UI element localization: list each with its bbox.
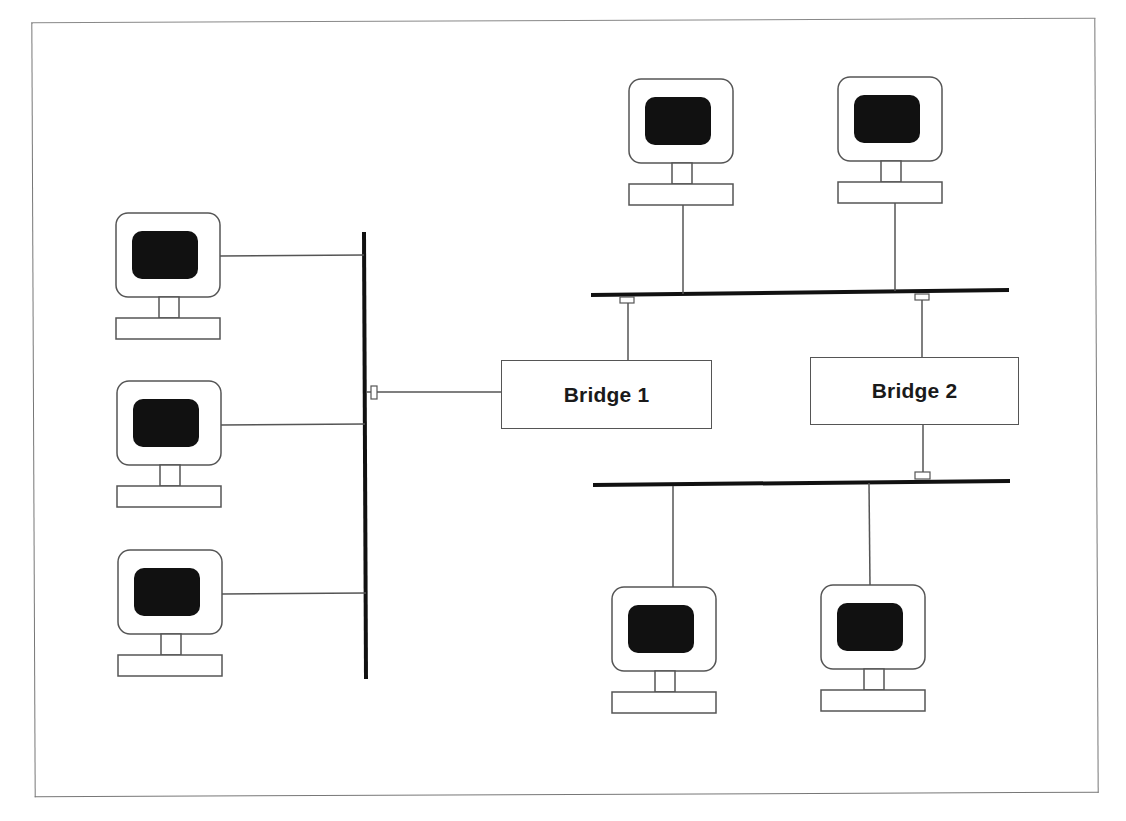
monitor-icon bbox=[117, 381, 221, 507]
bus-line-top bbox=[591, 290, 1009, 295]
bus-line-left bbox=[364, 232, 366, 679]
drop-cable bbox=[221, 424, 365, 425]
computer-left-1[interactable] bbox=[116, 213, 220, 339]
monitor-icon bbox=[629, 79, 733, 205]
port-connector-icon bbox=[915, 294, 929, 300]
segment-left bbox=[116, 213, 501, 679]
computer-bottom-2[interactable] bbox=[821, 585, 925, 711]
bridge-2-label: Bridge 2 bbox=[872, 379, 958, 403]
segment-bottom bbox=[593, 425, 1010, 713]
port-connector-icon bbox=[915, 472, 930, 479]
bridge-1-label: Bridge 1 bbox=[564, 383, 650, 407]
segment-top bbox=[591, 77, 1009, 361]
bus-line-bottom bbox=[593, 481, 1010, 485]
port-connector-icon bbox=[371, 386, 377, 399]
computer-top-1[interactable] bbox=[629, 79, 733, 205]
computer-bottom-1[interactable] bbox=[612, 587, 716, 713]
drop-cable bbox=[220, 255, 364, 256]
bridge-1-box[interactable]: Bridge 1 bbox=[501, 360, 712, 429]
monitor-icon bbox=[838, 77, 942, 203]
bridge-2-box[interactable]: Bridge 2 bbox=[810, 357, 1019, 425]
computer-top-2[interactable] bbox=[838, 77, 942, 203]
drop-cable bbox=[222, 593, 366, 594]
computer-left-3[interactable] bbox=[118, 550, 222, 676]
computer-left-2[interactable] bbox=[117, 381, 221, 507]
monitor-icon bbox=[612, 587, 716, 713]
monitor-icon bbox=[116, 213, 220, 339]
monitor-icon bbox=[821, 585, 925, 711]
monitor-icon bbox=[118, 550, 222, 676]
network-diagram: Bridge 1 Bridge 2 bbox=[0, 0, 1126, 821]
port-connector-icon bbox=[620, 297, 634, 303]
drop-cable bbox=[869, 483, 870, 585]
